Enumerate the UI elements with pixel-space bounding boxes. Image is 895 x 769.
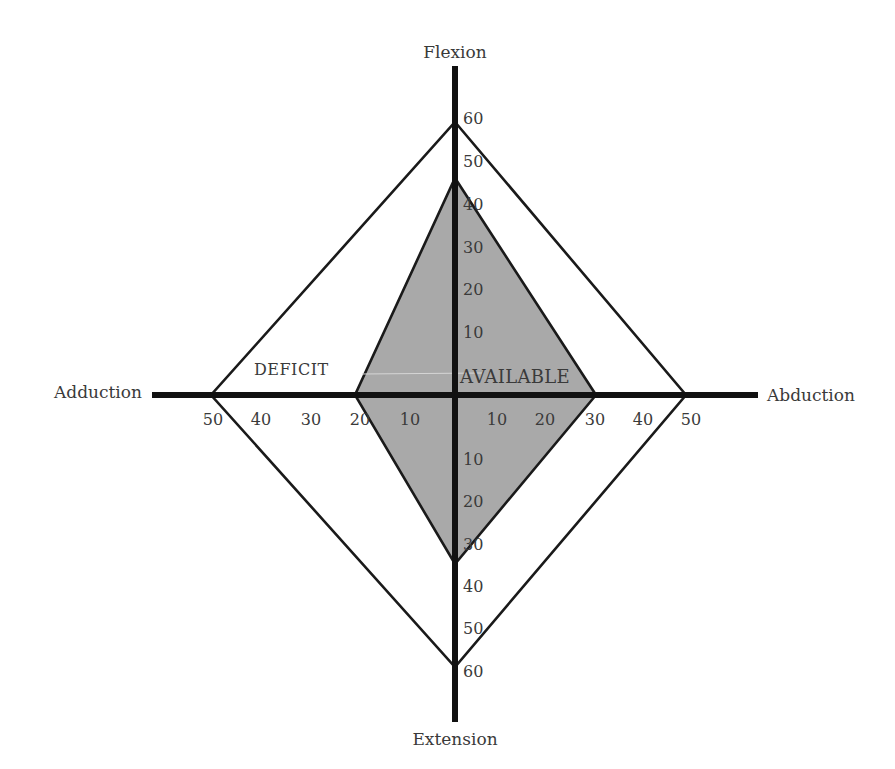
tick-label: 50 — [203, 410, 223, 429]
tick-label: 20 — [535, 410, 555, 429]
tick-label: 10 — [463, 450, 483, 469]
tick-label: 50 — [681, 410, 701, 429]
tick-label: 30 — [585, 410, 605, 429]
tick-label: 50 — [463, 619, 483, 638]
flexion-label: Flexion — [423, 42, 487, 62]
tick-label: 20 — [463, 492, 483, 511]
tick-label: 40 — [633, 410, 653, 429]
tick-label: 30 — [301, 410, 321, 429]
range-of-motion-diagram: Flexion Extension Adduction Abduction 60… — [0, 0, 895, 769]
tick-label: 50 — [463, 152, 483, 171]
tick-label: 20 — [463, 280, 483, 299]
tick-label: 30 — [463, 535, 483, 554]
tick-label: 10 — [463, 323, 483, 342]
tick-label: 30 — [463, 238, 483, 257]
abduction-label: Abduction — [766, 385, 855, 405]
available-label: AVAILABLE — [459, 366, 570, 387]
extension-label: Extension — [412, 729, 497, 749]
tick-label: 40 — [463, 195, 483, 214]
tick-label: 10 — [487, 410, 507, 429]
tick-label: 40 — [251, 410, 271, 429]
tick-label: 40 — [463, 577, 483, 596]
tick-label: 60 — [463, 109, 483, 128]
deficit-label: DEFICIT — [254, 360, 329, 379]
tick-label: 10 — [400, 410, 420, 429]
tick-label: 20 — [350, 410, 370, 429]
adduction-label: Adduction — [53, 382, 142, 402]
tick-label: 60 — [463, 662, 483, 681]
